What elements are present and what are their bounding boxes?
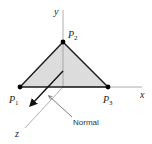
point-p3 xyxy=(106,85,111,90)
normal-label: Normal xyxy=(73,118,99,127)
y-axis-label: y xyxy=(53,6,59,17)
point-p1-label: P1 xyxy=(8,94,19,107)
normal-leader-line xyxy=(49,96,72,117)
point-p3-label: P3 xyxy=(102,94,113,107)
x-axis-label: x xyxy=(139,89,145,100)
point-p2-label: P2 xyxy=(67,29,78,42)
point-p1 xyxy=(18,85,23,90)
triangle-face xyxy=(20,42,108,87)
z-axis xyxy=(25,87,63,128)
point-p2 xyxy=(61,40,66,45)
z-axis-label: z xyxy=(14,128,19,139)
diagram-canvas: y x z P2 P1 P3 Normal xyxy=(0,0,152,144)
